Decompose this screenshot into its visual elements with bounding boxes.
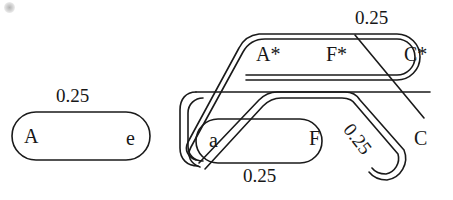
node-label-F: F: [309, 128, 320, 148]
node-label-F-star: F*: [326, 44, 347, 64]
node-label-A-star: A*: [256, 44, 280, 64]
tangle-mid-band-upper: [199, 92, 406, 180]
left-loop-weight-label: 0.25: [56, 86, 89, 105]
node-label-A: A: [24, 126, 38, 146]
node-label-C-star: C*: [404, 44, 427, 64]
tangle-weight-top-right: 0.25: [355, 8, 388, 27]
figure-canvas: 0.25 A e A* F* C* a F C 0.25 0.25 0.25: [0, 0, 453, 200]
node-label-C: C: [414, 128, 427, 148]
node-label-a: a: [209, 130, 218, 150]
tangle-outer-upper-band-inner: [189, 39, 415, 167]
tangle-outer-upper-band-top: [186, 34, 420, 160]
tangle-weight-bottom-left: 0.25: [243, 166, 276, 185]
node-label-e: e: [126, 128, 135, 148]
